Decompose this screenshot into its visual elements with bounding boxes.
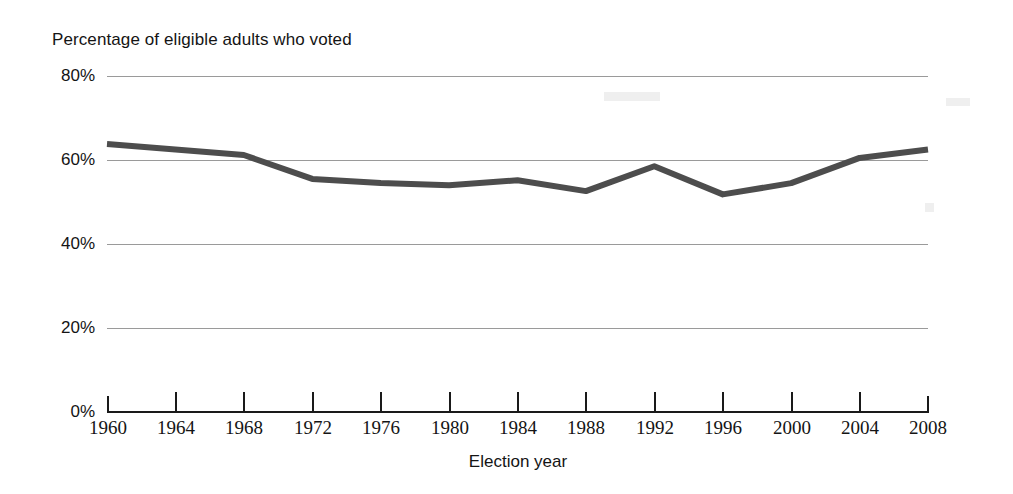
xtick-2004 [859, 392, 861, 412]
xtick-label-1968: 1968 [204, 417, 284, 439]
chart-title: Percentage of eligible adults who voted [52, 30, 352, 50]
xtick-label-1976: 1976 [341, 417, 421, 439]
ytick-label-80: 80% [37, 66, 95, 86]
x-axis-left-cap [107, 396, 109, 412]
scan-artifact [946, 98, 970, 106]
xtick-label-1988: 1988 [546, 417, 626, 439]
xtick-1996 [722, 392, 724, 412]
xtick-1976 [380, 392, 382, 412]
xtick-1964 [175, 392, 177, 412]
xtick-label-1996: 1996 [683, 417, 763, 439]
ytick-label-20: 20% [37, 318, 95, 338]
xtick-1972 [312, 392, 314, 412]
xtick-1968 [243, 392, 245, 412]
xtick-label-2008: 2008 [888, 417, 968, 439]
xtick-1992 [654, 392, 656, 412]
ytick-label-40: 40% [37, 234, 95, 254]
ytick-label-60: 60% [37, 150, 95, 170]
xtick-1984 [517, 392, 519, 412]
voter-turnout-line-chart: Percentage of eligible adults who voted … [0, 0, 1013, 494]
x-axis-title: Election year [107, 452, 929, 472]
xtick-1988 [585, 392, 587, 412]
x-axis-right-cap [927, 396, 929, 412]
plot-area [107, 76, 928, 412]
gridline-80 [107, 76, 928, 77]
gridline-40 [107, 244, 928, 245]
gridline-60 [107, 160, 928, 161]
xtick-2000 [791, 392, 793, 412]
gridline-20 [107, 328, 928, 329]
xtick-1980 [449, 392, 451, 412]
